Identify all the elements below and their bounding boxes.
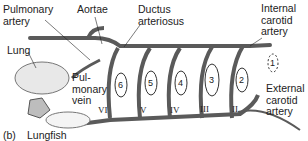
label-external-carotid: External carotid artery bbox=[266, 83, 305, 118]
gill-number-4: 4 bbox=[178, 78, 183, 90]
label-lung: Lung bbox=[7, 45, 30, 57]
label-ductus-arteriosus: Ductus arteriosus bbox=[138, 4, 184, 27]
gill-number-6: 6 bbox=[118, 80, 123, 92]
heart bbox=[28, 98, 50, 118]
gill-number-5: 5 bbox=[148, 78, 153, 90]
gill-number-1: 1 bbox=[270, 58, 275, 70]
caption-panel: (b) bbox=[3, 129, 16, 141]
arch-numeral-iv: IV bbox=[170, 105, 180, 117]
label-pulmonary-vein: Pul- monary vein bbox=[72, 72, 107, 107]
gill-number-3: 3 bbox=[209, 75, 214, 87]
arch-numeral-vi: VI bbox=[98, 105, 108, 117]
dorsal-aorta bbox=[30, 38, 270, 46]
arch-numeral-v: V bbox=[140, 105, 147, 117]
arch-numeral-iii: III bbox=[200, 104, 209, 116]
gill-number-2: 2 bbox=[239, 75, 244, 87]
caption-name: Lungfish bbox=[27, 129, 67, 141]
label-aortae: Aortae bbox=[77, 4, 108, 16]
label-pulmonary-artery: Pulmonary artery bbox=[3, 4, 53, 27]
label-internal-carotid: Internal carotid artery bbox=[261, 3, 296, 38]
lung bbox=[15, 62, 69, 94]
arch-numeral-ii: II bbox=[232, 104, 238, 116]
sinus bbox=[46, 112, 90, 128]
